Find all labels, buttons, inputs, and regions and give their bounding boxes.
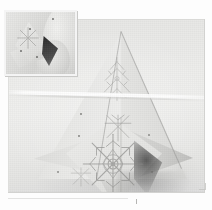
snowflake-motif-lower-left: [68, 165, 94, 189]
corner-registration-mark: [199, 183, 206, 190]
baseline-tick-mark: [136, 199, 137, 204]
paper-speck: [80, 113, 82, 115]
inset-snowflake-motif: [16, 26, 40, 50]
inset-speck: [20, 50, 22, 52]
baseline-rule: [8, 198, 128, 199]
figure-stage: [0, 0, 212, 210]
paper-speck: [57, 171, 59, 173]
inset-speck: [52, 18, 54, 20]
paper-speck: [148, 134, 150, 136]
inset-speck: [36, 56, 38, 58]
inset-photograph: [4, 10, 77, 76]
inset-speck: [29, 28, 31, 30]
paper-speck: [78, 135, 80, 137]
paper-speck: [151, 171, 153, 173]
